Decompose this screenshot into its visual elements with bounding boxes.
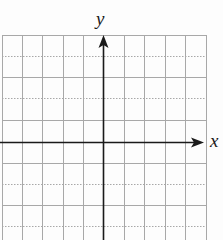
vertical-grid-lines xyxy=(3,35,207,240)
coordinate-plane: y x xyxy=(0,0,223,240)
y-axis xyxy=(99,35,109,240)
x-axis xyxy=(0,138,204,148)
grid-graphic xyxy=(0,0,223,240)
y-axis-label: y xyxy=(96,9,104,28)
x-axis-label: x xyxy=(210,131,218,150)
